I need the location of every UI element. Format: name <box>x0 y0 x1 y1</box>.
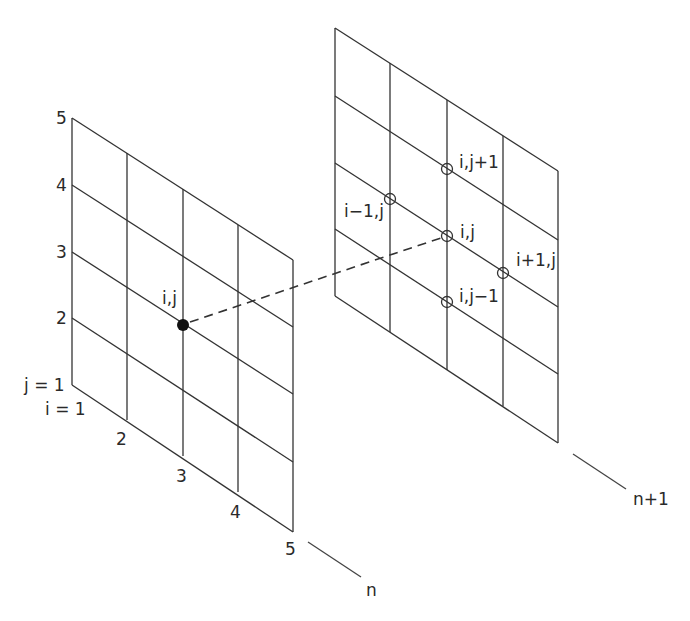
i-label-3: 3 <box>176 466 187 486</box>
point-i-jplus1-label: i,j+1 <box>459 152 499 172</box>
i-label-5: 5 <box>285 539 296 559</box>
j-label-2: 2 <box>56 308 67 328</box>
level-n-label: n <box>366 580 377 600</box>
i-label-1: i = 1 <box>45 399 86 419</box>
j-label-3: 3 <box>56 242 67 262</box>
grid-level-n-plus-1 <box>335 28 558 443</box>
i-label-4: 4 <box>230 502 241 522</box>
j-label-5: 5 <box>56 108 67 128</box>
stencil-points-level-n-plus-1: i,j+1 i−1,j i,j i+1,j i,j−1 <box>344 152 556 308</box>
point-ij-level-n-label: i,j <box>162 288 177 308</box>
point-ij-level-n <box>177 319 189 331</box>
j-label-4: 4 <box>56 175 67 195</box>
stencil-diagram: 5 4 3 2 j = 1 i = 1 2 3 4 5 n i,j i,j+1 <box>0 0 690 621</box>
point-i-jminus1-label: i,j−1 <box>459 286 499 306</box>
level-n-plus-1-tick <box>573 454 626 489</box>
time-step-connector <box>190 238 441 322</box>
i-label-2: 2 <box>116 429 127 449</box>
level-n-plus-1-label: n+1 <box>633 489 669 509</box>
point-iplus1-j-label: i+1,j <box>516 250 556 270</box>
point-iminus1-j-label: i−1,j <box>344 201 384 221</box>
i-axis-labels: i = 1 2 3 4 5 <box>45 399 296 559</box>
j-label-1: j = 1 <box>23 375 65 395</box>
level-n-tick <box>308 542 361 577</box>
point-i-j-label: i,j <box>460 222 475 242</box>
j-axis-labels: 5 4 3 2 j = 1 <box>23 108 67 395</box>
